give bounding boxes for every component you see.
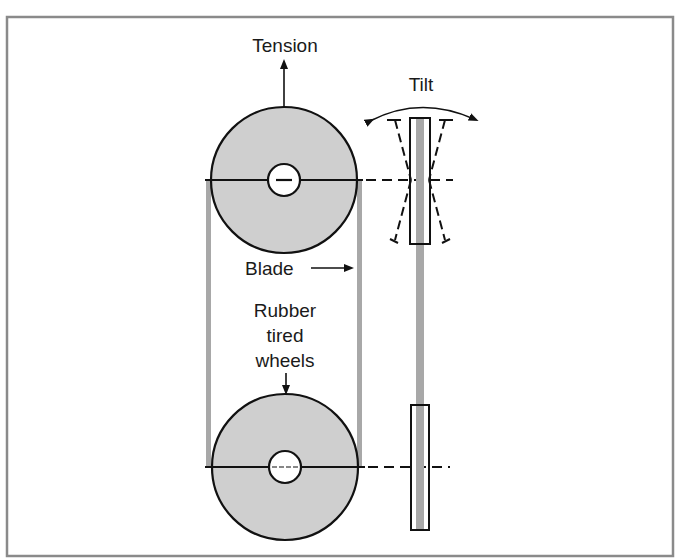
blade-label: Blade [245,258,294,279]
blade-left-strand [206,180,211,467]
wheels-label-line3: wheels [254,350,314,371]
wheels-label-line2: tired [267,325,304,346]
wheels-label-line1: Rubber [254,300,317,321]
side-view-blade [416,117,424,530]
bandsaw-wheel-diagram: Tension Tilt Blade Rubber tired wheels [0,0,685,559]
tension-label: Tension [252,35,318,56]
bottom-wheel [205,394,365,540]
tilt-label: Tilt [409,74,434,95]
blade-right-strand [357,180,362,467]
top-wheel [205,107,363,253]
